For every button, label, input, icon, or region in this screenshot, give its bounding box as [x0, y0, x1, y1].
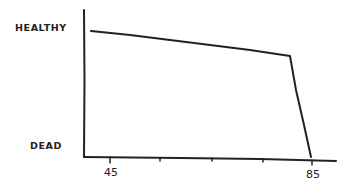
x-tick-label-45: 45	[104, 166, 118, 179]
health-line	[91, 31, 311, 157]
y-axis	[84, 10, 85, 157]
x-axis	[84, 157, 336, 161]
x-tick-label-85: 85	[306, 168, 320, 181]
health-chart	[0, 0, 358, 191]
